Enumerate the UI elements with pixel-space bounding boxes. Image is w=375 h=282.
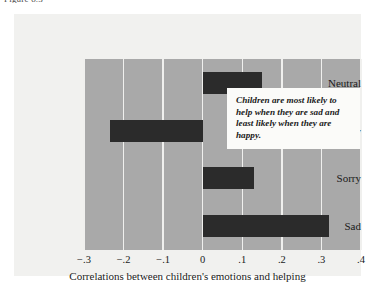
x-axis-tick-2: −.1: [156, 254, 170, 265]
bar-sorry: [203, 167, 254, 189]
x-axis-tick-4: .1: [238, 254, 246, 265]
figure-card: NeutralHappySorrySad −.3−.2−.10.1.2.3.4 …: [14, 14, 361, 276]
x-axis-tick-7: .4: [357, 254, 365, 265]
x-axis-tick-6: .3: [317, 254, 325, 265]
x-axis-title: Correlations between children's emotions…: [14, 270, 361, 282]
gridline-x-0: [83, 59, 85, 250]
x-axis-tick-0: −.3: [77, 254, 91, 265]
x-axis-tick-1: −.2: [117, 254, 131, 265]
bar-happy: [110, 120, 203, 142]
x-axis-tick-3: 0: [200, 254, 205, 265]
gridline-x-1: [123, 59, 125, 250]
figure-caption: Figure 8.3: [4, 0, 43, 3]
chart-annotation-callout: Children are most likely to help when th…: [227, 88, 360, 149]
y-axis-label-sad: Sad: [299, 220, 361, 232]
x-axis-tick-5: .2: [278, 254, 286, 265]
gridline-x-2: [162, 59, 164, 250]
y-axis-label-sorry: Sorry: [299, 172, 361, 184]
